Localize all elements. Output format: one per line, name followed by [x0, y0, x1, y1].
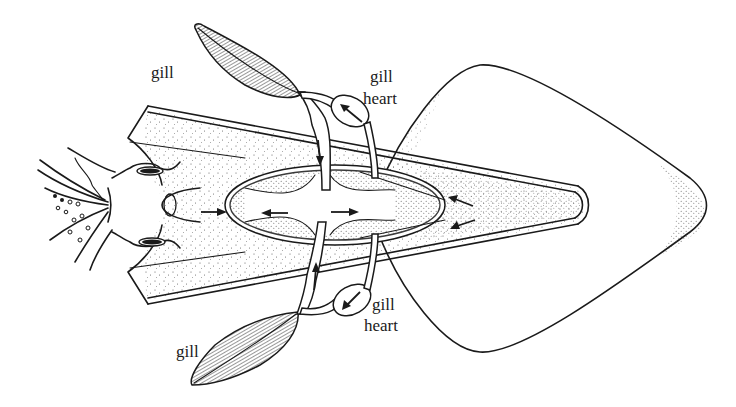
squid-circulation-diagram: gill gill heart gill gill heart: [0, 0, 736, 407]
arms: [38, 148, 115, 270]
systemic-heart: [225, 165, 445, 245]
eye-top: [137, 167, 163, 175]
label-gill-heart-top-2: heart: [363, 89, 397, 108]
eye-bottom: [139, 238, 165, 246]
label-gill-top: gill: [151, 63, 174, 82]
label-gill-heart-bottom-1: gill: [372, 295, 395, 314]
gill-top: [195, 24, 300, 98]
gill-bottom: [191, 312, 298, 385]
label-gill-heart-top-1: gill: [370, 67, 393, 86]
label-gill-heart-bottom-2: heart: [364, 316, 398, 335]
label-gill-bottom: gill: [176, 342, 199, 361]
